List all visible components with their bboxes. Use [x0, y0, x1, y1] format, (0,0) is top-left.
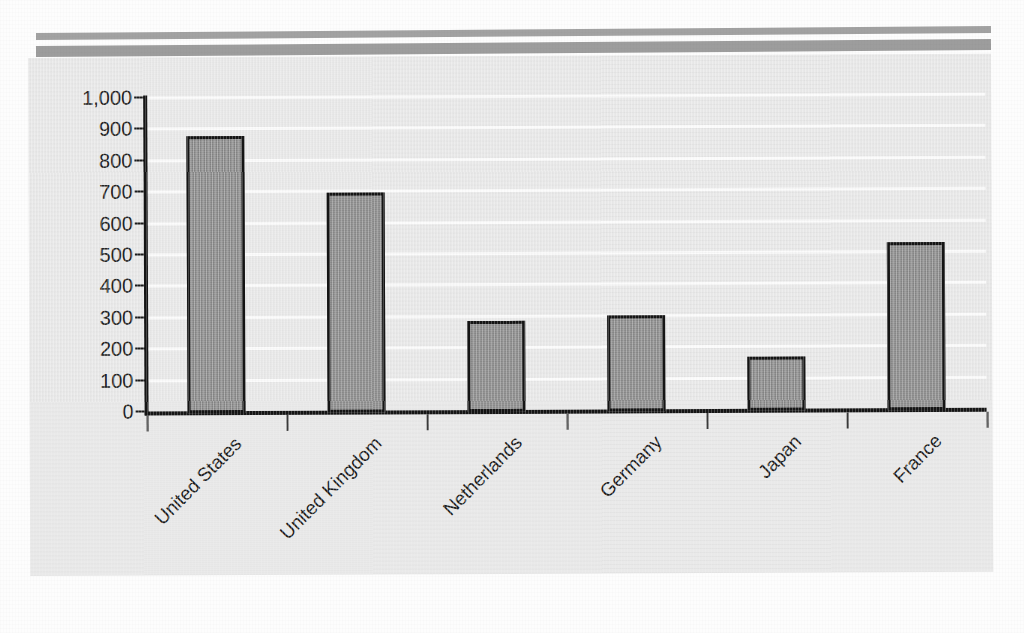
bar[interactable] — [887, 242, 946, 411]
x-axis-category-label: United Kingdom — [275, 433, 386, 545]
x-axis-tick — [847, 412, 849, 428]
gridline — [146, 250, 986, 257]
y-axis-tick-label: 500 — [47, 245, 133, 265]
y-axis-tick-label: 400 — [47, 276, 133, 296]
y-axis-tick-label: 100 — [47, 370, 133, 390]
x-axis-tick — [987, 412, 989, 428]
chart-page: 01002003004005006007008009001,000 United… — [0, 0, 1024, 633]
bar[interactable] — [186, 136, 245, 413]
y-axis-tick-label: 700 — [47, 182, 133, 202]
y-axis-tick-label: 1,000 — [46, 88, 132, 108]
gridline — [146, 375, 986, 382]
x-axis-category-label: France — [889, 430, 946, 487]
x-axis-line — [145, 408, 987, 416]
plot-area: 01002003004005006007008009001,000 United… — [28, 54, 993, 576]
x-axis-tick — [707, 413, 709, 429]
header-rule-top-icon — [36, 26, 991, 40]
x-axis-tick — [427, 414, 429, 430]
gridline — [146, 344, 986, 351]
y-axis-tick-label: 800 — [46, 150, 132, 170]
bar[interactable] — [327, 192, 386, 412]
x-axis-category-label: Netherlands — [439, 432, 527, 520]
x-axis-category-label: Japan — [754, 431, 806, 483]
y-axis-tick-label: 0 — [48, 402, 134, 422]
gridline — [146, 218, 986, 225]
x-axis-tick — [147, 415, 149, 431]
x-axis-tick — [567, 414, 569, 430]
gridline — [146, 313, 986, 320]
gridline — [146, 187, 986, 194]
y-axis-tick-label: 200 — [47, 339, 133, 359]
y-axis-tick-labels: 01002003004005006007008009001,000 — [30, 58, 134, 576]
chart-panel: 01002003004005006007008009001,000 United… — [28, 54, 993, 576]
bar[interactable] — [467, 320, 525, 412]
gridline — [145, 156, 985, 163]
gridline — [145, 93, 985, 100]
x-axis-category-label: United States — [150, 433, 246, 530]
gridline — [146, 281, 986, 288]
x-axis-tick — [287, 415, 289, 431]
x-axis-category-label: Germany — [596, 431, 667, 502]
bar[interactable] — [747, 357, 805, 411]
y-axis-tick-label: 900 — [46, 119, 132, 139]
y-axis-tick-label: 300 — [47, 307, 133, 327]
y-axis-line — [143, 95, 148, 415]
y-axis-tick-label: 600 — [47, 213, 133, 233]
bar[interactable] — [607, 315, 665, 411]
gridline — [145, 124, 985, 131]
